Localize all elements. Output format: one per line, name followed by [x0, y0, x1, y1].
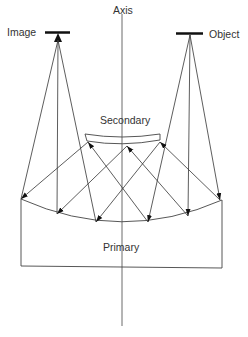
primary-label: Primary — [103, 242, 139, 253]
image-label: Image — [7, 27, 36, 38]
secondary-label: Secondary — [100, 115, 150, 126]
object-label: Object — [209, 29, 239, 40]
telescope-diagram: Axis Image Object Secondary Primary — [0, 0, 248, 337]
rays-object-to-primary — [148, 35, 220, 222]
primary-mirror — [21, 199, 222, 268]
secondary-mirror — [85, 134, 160, 144]
diagram-canvas — [0, 0, 248, 337]
rays-primary-to-image — [21, 40, 96, 222]
rays-primary-to-secondary — [88, 142, 220, 222]
axis-label: Axis — [113, 5, 133, 16]
